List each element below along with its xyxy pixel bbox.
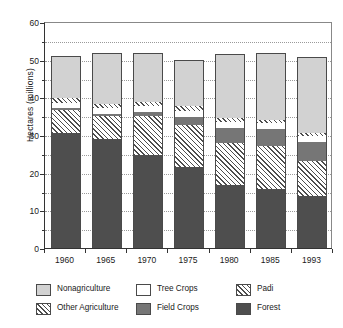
plot-area: 0102030405060 xyxy=(44,22,332,248)
y-axis-tick-minor xyxy=(42,193,45,194)
bar-segment-otherag xyxy=(297,161,327,196)
y-axis-tick-minor xyxy=(42,80,45,81)
bar-segment-field xyxy=(215,128,245,143)
bar-1965 xyxy=(92,53,122,248)
legend-item-forest: Forest xyxy=(236,299,336,318)
bar-segment-nonag xyxy=(297,57,327,133)
legend-swatch-otherag xyxy=(36,303,51,315)
legend-item-padi: Padi xyxy=(236,280,336,299)
y-axis-label: 10 xyxy=(15,207,39,216)
x-axis-tick xyxy=(167,249,168,253)
legend-swatch-forest xyxy=(236,303,251,315)
x-axis-label-1970: 1970 xyxy=(127,255,167,265)
x-axis-tick xyxy=(209,249,210,253)
legend-item-field: Field Crops xyxy=(136,299,236,318)
bar-segment-field xyxy=(297,142,327,160)
x-axis: 1960196519701975198019851993 xyxy=(44,248,332,249)
stacked-bar-chart: Hectares (millions) 0102030405060 196019… xyxy=(0,0,343,328)
legend-swatch-field xyxy=(136,303,151,315)
y-axis-tick-major xyxy=(40,136,45,137)
bar-segment-field xyxy=(174,117,204,125)
y-axis-tick-major xyxy=(40,61,45,62)
bar-segment-nonag xyxy=(133,53,163,102)
legend-swatch-tree xyxy=(136,284,151,296)
bar-segment-nonag xyxy=(174,60,204,106)
y-axis-label: 50 xyxy=(15,57,39,66)
legend-swatch-nonag xyxy=(36,284,51,296)
x-axis-tick-end xyxy=(44,249,45,253)
bar-1985 xyxy=(256,53,286,248)
legend-label: Padi xyxy=(257,285,273,293)
y-axis-tick-major xyxy=(40,23,45,24)
bar-segment-nonag xyxy=(215,54,245,118)
bar-segment-forest xyxy=(215,185,245,248)
legend-item-nonag: Nonagriculture xyxy=(36,280,136,299)
y-axis-label: 40 xyxy=(15,94,39,103)
bar-1960 xyxy=(51,56,81,248)
bar-segment-nonag xyxy=(51,56,81,99)
bar-segment-otherag xyxy=(133,116,163,155)
bar-segment-nonag xyxy=(256,53,286,120)
legend-label: Other Agriculture xyxy=(57,304,118,312)
bar-segment-otherag xyxy=(215,143,245,186)
bar-1975 xyxy=(174,60,204,248)
x-axis-label-1985: 1985 xyxy=(250,255,290,265)
chart-legend: NonagricultureTree CropsPadiOther Agricu… xyxy=(36,280,336,318)
legend-label: Forest xyxy=(257,304,280,312)
bar-segment-otherag xyxy=(92,116,122,139)
legend-item-otherag: Other Agriculture xyxy=(36,299,136,318)
legend-label: Field Crops xyxy=(157,304,199,312)
y-axis-tick-minor xyxy=(42,42,45,43)
y-axis-tick-minor xyxy=(42,230,45,231)
y-axis-tick-minor xyxy=(42,117,45,118)
legend-label: Tree Crops xyxy=(157,285,198,293)
x-axis-tick xyxy=(126,249,127,253)
y-axis-label: 30 xyxy=(15,132,39,141)
x-axis-tick xyxy=(291,249,292,253)
x-axis-tick xyxy=(250,249,251,253)
y-axis-tick-major xyxy=(40,211,45,212)
legend-item-tree: Tree Crops xyxy=(136,280,236,299)
y-axis-tick-major xyxy=(40,174,45,175)
gridline xyxy=(45,42,331,43)
x-axis-label-1980: 1980 xyxy=(209,255,249,265)
y-axis-label: 0 xyxy=(15,245,39,254)
y-axis-label: 20 xyxy=(15,170,39,179)
x-axis-label-1965: 1965 xyxy=(86,255,126,265)
legend-label: Nonagriculture xyxy=(57,285,110,293)
y-axis-label: 60 xyxy=(15,19,39,28)
bar-segment-forest xyxy=(256,189,286,248)
x-axis-tick-end xyxy=(332,249,333,253)
y-axis-tick-minor xyxy=(42,155,45,156)
x-axis-label-1960: 1960 xyxy=(45,255,85,265)
bar-segment-nonag xyxy=(92,53,122,105)
legend-swatch-padi xyxy=(236,284,251,296)
y-axis-title: Hectares (millions) xyxy=(25,30,35,180)
bar-1993 xyxy=(297,57,327,248)
bar-1980 xyxy=(215,54,245,248)
bar-1970 xyxy=(133,53,163,248)
x-axis-label-1975: 1975 xyxy=(168,255,208,265)
bar-segment-otherag xyxy=(174,125,204,166)
bar-segment-otherag xyxy=(256,146,286,189)
bar-segment-field xyxy=(256,129,286,146)
bar-segment-forest xyxy=(174,167,204,248)
bar-segment-forest xyxy=(92,139,122,247)
bar-segment-forest xyxy=(51,133,81,248)
x-axis-label-1993: 1993 xyxy=(291,255,331,265)
x-axis-tick xyxy=(85,249,86,253)
y-axis-tick-major xyxy=(40,98,45,99)
bar-segment-otherag xyxy=(51,110,81,133)
bar-segment-forest xyxy=(297,196,327,248)
bar-segment-forest xyxy=(133,155,163,248)
